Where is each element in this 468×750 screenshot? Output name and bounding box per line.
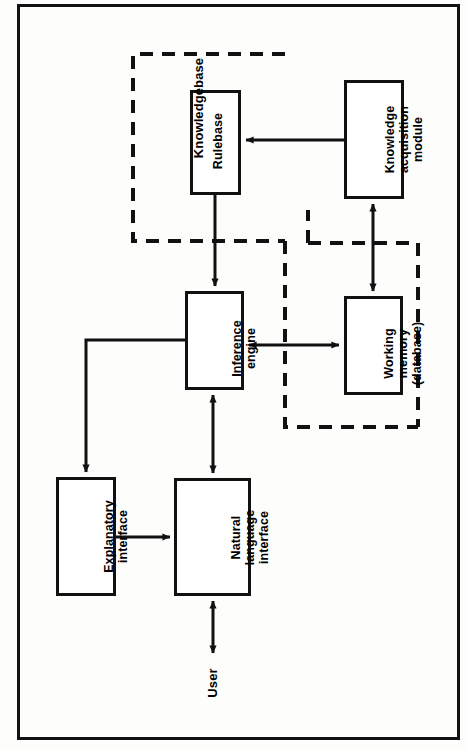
node-rulebase[interactable] xyxy=(192,92,240,194)
edge-inference-engine-to-explanatory-interface xyxy=(86,340,186,472)
node-natural-language-interface[interactable] xyxy=(176,480,250,595)
expert-system-architecture-diagram: Rulebase Knowledge acquisition module In… xyxy=(0,0,468,750)
node-knowledge-acquisition[interactable] xyxy=(346,82,403,198)
diagram-canvas xyxy=(0,0,468,750)
node-inference-engine[interactable] xyxy=(187,293,243,389)
node-working-memory[interactable] xyxy=(346,298,402,394)
node-explanatory-interface[interactable] xyxy=(58,479,115,595)
